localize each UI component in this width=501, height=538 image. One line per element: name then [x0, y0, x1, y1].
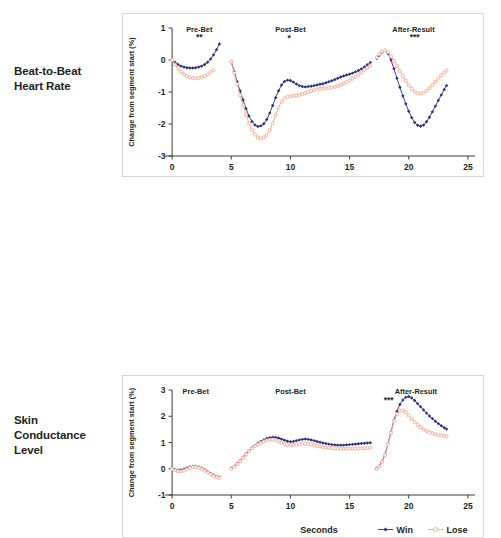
data-point-marker — [286, 439, 289, 442]
data-point-marker — [366, 441, 369, 444]
data-point-marker — [306, 85, 309, 88]
data-point-marker — [378, 465, 381, 468]
data-point-marker — [197, 65, 200, 68]
data-point-marker — [348, 79, 351, 82]
data-point-marker — [280, 437, 283, 440]
data-point-marker — [339, 443, 342, 446]
data-point-marker — [171, 58, 174, 61]
data-point-marker — [312, 84, 315, 87]
series-lose — [171, 49, 449, 140]
x-tick-label: 10 — [286, 162, 296, 172]
data-point-marker — [236, 462, 239, 465]
data-point-marker — [339, 75, 342, 78]
data-point-marker — [179, 64, 182, 67]
row-label-line: Conductance — [14, 428, 120, 443]
data-point-marker — [283, 438, 286, 441]
data-point-marker — [309, 85, 312, 88]
y-tick-label: 0 — [161, 464, 166, 474]
data-point-marker — [407, 110, 410, 113]
data-point-marker — [212, 69, 215, 72]
data-point-marker — [422, 91, 425, 94]
data-point-marker — [191, 66, 194, 69]
data-point-marker — [304, 85, 307, 88]
data-point-marker — [271, 122, 274, 125]
data-point-marker — [386, 443, 389, 446]
data-point-marker — [375, 56, 378, 59]
data-point-marker — [327, 80, 330, 83]
data-point-marker — [277, 106, 280, 109]
data-point-marker — [392, 67, 395, 70]
data-point-marker — [174, 63, 177, 66]
data-point-marker — [312, 439, 315, 442]
data-point-marker — [292, 440, 295, 443]
data-point-marker — [428, 87, 431, 90]
data-point-marker — [416, 423, 419, 426]
x-tick-label: 15 — [345, 501, 355, 511]
data-point-marker — [333, 78, 336, 81]
data-point-marker — [392, 419, 395, 422]
data-point-marker — [419, 125, 422, 128]
data-point-marker — [256, 125, 259, 128]
data-point-marker — [318, 83, 321, 86]
data-point-marker — [230, 467, 233, 470]
y-axis-title: Change from segment start (%) — [127, 387, 136, 497]
data-point-marker — [244, 113, 247, 116]
data-point-marker — [289, 440, 292, 443]
data-point-marker — [360, 442, 363, 445]
segment-label: After-Result — [395, 387, 438, 396]
row-label-skin-conductance: Skin Conductance Level — [14, 413, 120, 458]
data-point-marker — [434, 104, 437, 107]
data-point-marker — [345, 73, 348, 76]
data-point-marker — [179, 70, 182, 73]
data-point-marker — [315, 440, 318, 443]
y-tick-label: -1 — [158, 87, 166, 97]
data-point-marker — [242, 104, 245, 107]
data-point-marker — [395, 77, 398, 80]
data-point-marker — [437, 77, 440, 80]
data-point-marker — [357, 73, 360, 76]
data-point-marker — [384, 49, 387, 52]
data-point-marker — [378, 53, 381, 56]
data-point-marker — [185, 66, 188, 69]
significance-marker: *** — [384, 395, 395, 405]
legend-label-win[interactable]: Win — [397, 525, 413, 535]
data-point-marker — [295, 439, 298, 442]
data-point-marker — [268, 129, 271, 132]
data-point-marker — [218, 476, 221, 479]
data-point-marker — [410, 417, 413, 420]
data-point-marker — [194, 66, 197, 69]
data-point-marker — [398, 86, 401, 89]
data-point-marker — [200, 64, 203, 67]
y-tick-label: -2 — [158, 119, 166, 129]
data-point-marker — [218, 42, 221, 45]
data-point-marker — [395, 413, 398, 416]
legend-marker-lose — [434, 528, 438, 532]
data-point-marker — [351, 71, 354, 74]
x-tick-label: 10 — [286, 501, 296, 511]
significance-marker: * — [288, 33, 292, 43]
data-point-marker — [401, 94, 404, 97]
row-label-heart-rate: Beat-to-Beat Heart Rate — [14, 64, 120, 94]
legend-label-lose[interactable]: Lose — [447, 525, 468, 535]
data-point-marker — [336, 443, 339, 446]
data-point-marker — [242, 456, 245, 459]
y-tick-label: -3 — [158, 151, 166, 161]
data-point-marker — [404, 102, 407, 105]
data-point-marker — [354, 70, 357, 73]
segment-label: Post-Bet — [275, 387, 306, 396]
data-point-marker — [410, 87, 413, 90]
data-point-marker — [386, 51, 389, 54]
data-point-marker — [413, 420, 416, 423]
data-point-marker — [233, 71, 236, 74]
data-point-marker — [327, 442, 330, 445]
data-point-marker — [431, 83, 434, 86]
data-point-marker — [206, 73, 209, 76]
x-tick-label: 25 — [463, 162, 473, 172]
x-tick-label: 5 — [229, 501, 234, 511]
data-point-marker — [274, 113, 277, 116]
data-point-marker — [363, 68, 366, 71]
data-point-marker — [309, 438, 312, 441]
data-point-marker — [209, 71, 212, 74]
data-point-marker — [298, 84, 301, 87]
